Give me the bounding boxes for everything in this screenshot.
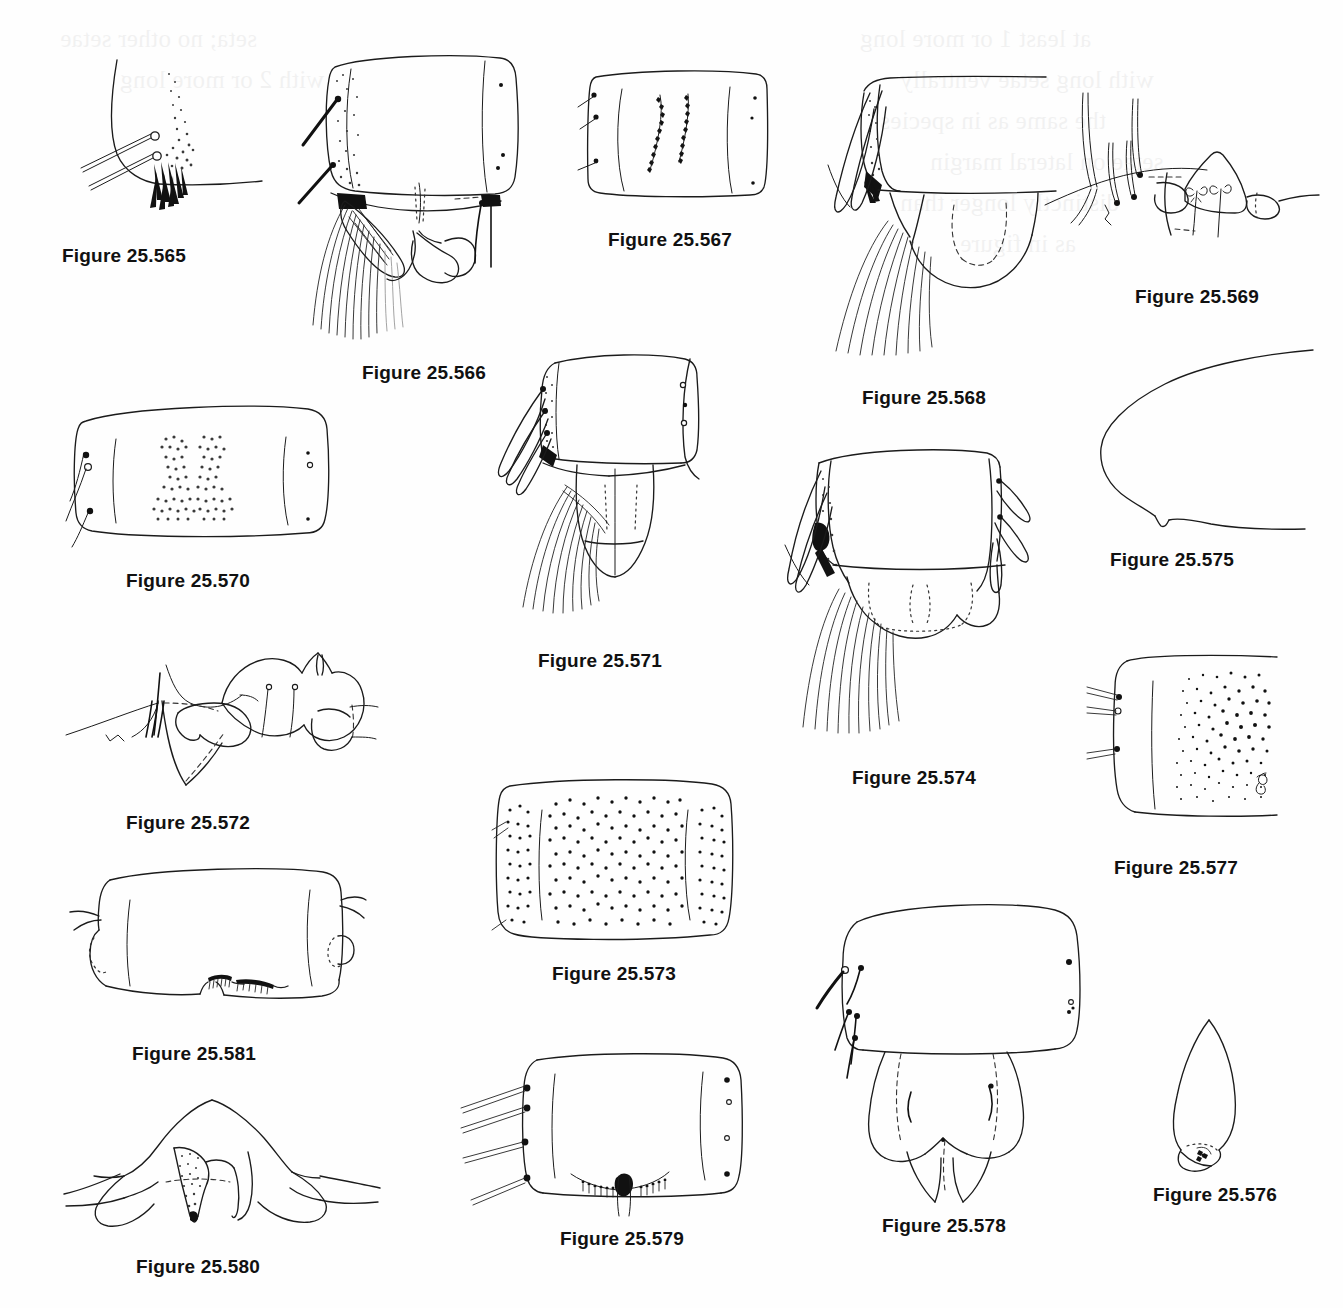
figure-25-569-drawing: [1035, 55, 1335, 265]
figure-25-581-drawing: [68, 858, 368, 1023]
figure-25-578-drawing: [785, 890, 1095, 1210]
caption-25-568: Figure 25.568: [862, 387, 986, 409]
caption-25-578: Figure 25.578: [882, 1215, 1006, 1237]
caption-25-573: Figure 25.573: [552, 963, 676, 985]
caption-25-574: Figure 25.574: [852, 767, 976, 789]
figure-25-579-drawing: [455, 1050, 755, 1220]
caption-25-565: Figure 25.565: [62, 245, 186, 267]
caption-25-579: Figure 25.579: [560, 1228, 684, 1250]
caption-25-575: Figure 25.575: [1110, 549, 1234, 571]
caption-25-569: Figure 25.569: [1135, 286, 1259, 308]
caption-25-571: Figure 25.571: [538, 650, 662, 672]
caption-25-581: Figure 25.581: [132, 1043, 256, 1065]
figure-25-565-drawing: [55, 50, 265, 240]
caption-25-577: Figure 25.577: [1114, 857, 1238, 879]
figure-25-574-drawing: [785, 435, 1050, 755]
caption-25-576: Figure 25.576: [1153, 1184, 1277, 1206]
figure-25-572-drawing: [62, 625, 382, 805]
figure-plate: seta; no other setae with 2 or more long…: [0, 0, 1343, 1308]
caption-25-580: Figure 25.580: [136, 1256, 260, 1278]
figure-25-580-drawing: [62, 1090, 382, 1245]
caption-25-566: Figure 25.566: [362, 362, 486, 384]
figure-25-573-drawing: [482, 768, 752, 958]
figure-25-575-drawing: [1055, 340, 1315, 530]
figure-25-570-drawing: [58, 385, 348, 555]
figure-25-567-drawing: [578, 65, 778, 210]
figure-25-568-drawing: [820, 45, 1070, 375]
figure-25-576-drawing: [1155, 1018, 1265, 1178]
caption-25-567: Figure 25.567: [608, 229, 732, 251]
figure-25-566-drawing: [295, 45, 560, 355]
caption-25-572: Figure 25.572: [126, 812, 250, 834]
caption-25-570: Figure 25.570: [126, 570, 250, 592]
figure-25-577-drawing: [1085, 645, 1285, 835]
figure-25-571-drawing: [485, 345, 745, 645]
